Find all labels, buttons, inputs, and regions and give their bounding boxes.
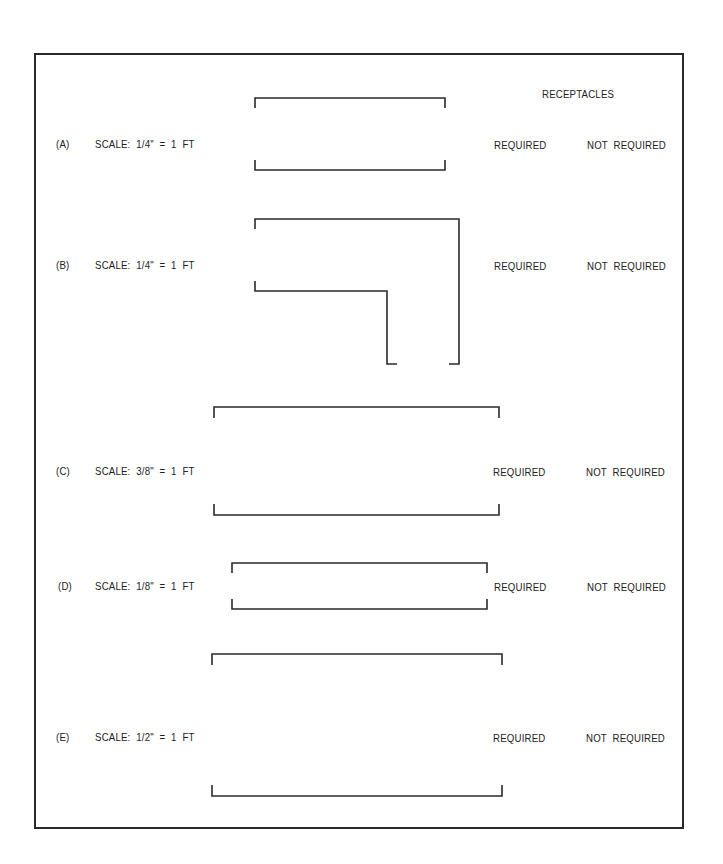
item-c-not-required-option[interactable]: NOT REQUIRED — [586, 466, 665, 478]
counter-drawing-c — [214, 407, 499, 515]
item-d-scale: SCALE: 1/8" = 1 FT — [95, 580, 195, 592]
item-d-label: (D) — [58, 580, 72, 592]
item-a-scale: SCALE: 1/4" = 1 FT — [95, 138, 195, 150]
item-b-label: (B) — [56, 259, 69, 271]
item-c-required-option[interactable]: REQUIRED — [493, 466, 545, 478]
item-e-required-option[interactable]: REQUIRED — [493, 732, 545, 744]
counter-drawing-a — [255, 98, 445, 170]
item-e-not-required-option[interactable]: NOT REQUIRED — [586, 732, 665, 744]
item-c-scale: SCALE: 3/8" = 1 FT — [95, 465, 195, 477]
item-e-label: (E) — [56, 731, 69, 743]
item-a-required-option[interactable]: REQUIRED — [494, 139, 546, 151]
counter-drawing-d — [232, 563, 487, 609]
item-b-not-required-option[interactable]: NOT REQUIRED — [587, 260, 666, 272]
item-c-label: (C) — [56, 465, 70, 477]
item-b-scale: SCALE: 1/4" = 1 FT — [95, 259, 195, 271]
counter-drawing-b — [255, 219, 459, 364]
counter-drawing-e — [212, 654, 502, 796]
receptacles-heading: RECEPTACLES — [542, 88, 614, 100]
item-e-scale: SCALE: 1/2" = 1 FT — [95, 731, 195, 743]
item-a-label: (A) — [56, 138, 69, 150]
item-b-required-option[interactable]: REQUIRED — [494, 260, 546, 272]
item-a-not-required-option[interactable]: NOT REQUIRED — [587, 139, 666, 151]
item-d-not-required-option[interactable]: NOT REQUIRED — [587, 581, 666, 593]
item-d-required-option[interactable]: REQUIRED — [494, 581, 546, 593]
